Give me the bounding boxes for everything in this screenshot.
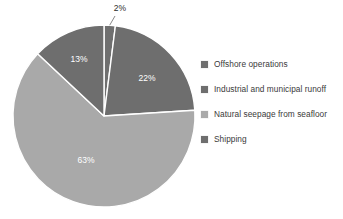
pie-leader-line-group bbox=[110, 16, 115, 25]
legend-item[interactable]: Industrial and municipal runoff bbox=[201, 83, 343, 95]
legend-item-label: Offshore operations bbox=[214, 59, 288, 70]
legend-item[interactable]: Offshore operations bbox=[201, 58, 343, 70]
legend-item-label: Industrial and municipal runoff bbox=[214, 84, 326, 95]
pie-slice-label: 63% bbox=[77, 155, 94, 165]
pie-callout-label: 2% bbox=[114, 3, 127, 13]
legend-swatch-icon bbox=[201, 61, 208, 68]
pie-slice-group bbox=[13, 25, 195, 207]
legend-swatch-icon bbox=[201, 136, 208, 143]
pie-leader-line bbox=[110, 16, 115, 25]
pie-chart: 2%22%63%13% Offshore operationsIndustria… bbox=[0, 0, 343, 219]
chart-legend: Offshore operationsIndustrial and munici… bbox=[201, 58, 343, 158]
legend-item-label: Natural seepage from seafloor bbox=[214, 109, 327, 120]
legend-item-label: Shipping bbox=[214, 134, 247, 145]
pie-slice[interactable] bbox=[104, 26, 195, 116]
pie-slice-label: 13% bbox=[70, 54, 87, 64]
pie-slice-label: 22% bbox=[138, 73, 155, 83]
legend-swatch-icon bbox=[201, 111, 208, 118]
legend-item[interactable]: Shipping bbox=[201, 133, 343, 145]
legend-item[interactable]: Natural seepage from seafloor bbox=[201, 108, 343, 120]
legend-swatch-icon bbox=[201, 86, 208, 93]
